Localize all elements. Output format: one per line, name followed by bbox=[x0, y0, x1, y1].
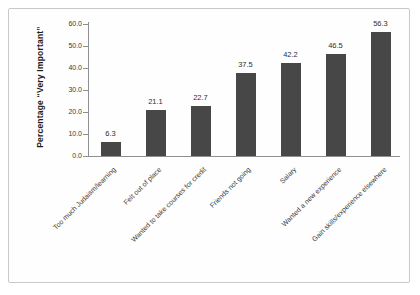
x-axis-line bbox=[88, 156, 400, 157]
bar-value-label: 56.3 bbox=[359, 19, 403, 29]
bar-value-label: 42.2 bbox=[269, 50, 313, 60]
y-tick-label: 20.0 bbox=[43, 107, 82, 116]
bar bbox=[281, 63, 301, 156]
bar-value-label: 22.7 bbox=[179, 93, 223, 103]
bar-value-label: 6.3 bbox=[89, 129, 133, 139]
bar bbox=[191, 106, 211, 156]
bar-value-label: 46.5 bbox=[314, 41, 358, 51]
category-label: Wanted to take courses for credit bbox=[129, 165, 208, 244]
y-tick-mark bbox=[83, 156, 88, 157]
category-label: Too much Judaism/learning bbox=[51, 165, 118, 232]
y-tick-mark bbox=[83, 134, 88, 135]
y-tick-label: 40.0 bbox=[43, 63, 82, 72]
category-label: Gain skills/experience elsewhere bbox=[309, 165, 387, 243]
y-tick-mark bbox=[83, 24, 88, 25]
bar bbox=[371, 32, 391, 156]
y-tick-label: 50.0 bbox=[43, 41, 82, 50]
category-label: Friends not going bbox=[208, 165, 253, 210]
y-tick-label: 0.0 bbox=[43, 151, 82, 160]
y-tick-mark bbox=[83, 90, 88, 91]
bar bbox=[326, 54, 346, 156]
y-tick-mark bbox=[83, 68, 88, 69]
bar-value-label: 21.1 bbox=[134, 97, 178, 107]
y-tick-label: 30.0 bbox=[43, 85, 82, 94]
bar bbox=[146, 110, 166, 156]
chart-frame: Percentage “Very Important” 0.010.020.03… bbox=[8, 8, 410, 283]
bar bbox=[101, 142, 121, 156]
category-label: Felt out of place bbox=[121, 165, 163, 207]
y-tick-label: 10.0 bbox=[43, 129, 82, 138]
bar bbox=[236, 73, 256, 156]
y-tick-label: 60.0 bbox=[43, 19, 82, 28]
y-tick-mark bbox=[83, 46, 88, 47]
bar-value-label: 37.5 bbox=[224, 60, 268, 70]
y-tick-mark bbox=[83, 112, 88, 113]
category-label: Salary bbox=[277, 165, 297, 185]
